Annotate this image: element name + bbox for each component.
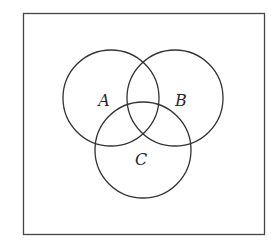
set-a-circle <box>63 50 159 146</box>
venn-diagram: A B C <box>0 0 275 242</box>
set-b-label: B <box>174 91 187 110</box>
set-a-label: A <box>96 91 110 110</box>
universe-box <box>24 14 265 235</box>
set-c-label: C <box>135 150 147 169</box>
